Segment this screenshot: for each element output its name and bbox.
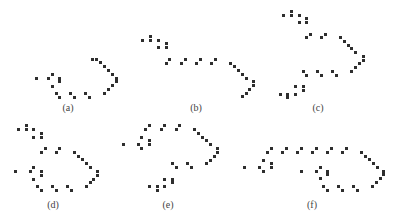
- point-dot: [356, 189, 359, 192]
- point-dot: [372, 162, 375, 165]
- point-dot: [337, 185, 340, 188]
- point-dot: [315, 147, 318, 150]
- point-dot: [266, 151, 269, 154]
- point-dot: [382, 173, 385, 176]
- point-dot: [326, 189, 329, 192]
- panel-label-f: (f): [307, 199, 317, 210]
- point-dot: [270, 162, 273, 165]
- panel-f: (f): [0, 0, 397, 220]
- point-dot: [258, 166, 261, 169]
- point-dot: [319, 166, 322, 169]
- point-dot: [262, 170, 265, 173]
- point-dot: [330, 147, 333, 150]
- point-dot: [262, 159, 265, 162]
- point-dot: [376, 166, 379, 169]
- point-dot: [364, 155, 367, 158]
- figure-canvas: (a) (b) (c) (d) (e) (f): [0, 0, 397, 220]
- point-dot: [311, 151, 314, 154]
- point-dot: [352, 185, 355, 188]
- point-dot: [326, 173, 329, 176]
- point-dot: [319, 177, 322, 180]
- point-dot: [285, 147, 288, 150]
- point-dot: [322, 185, 325, 188]
- point-dot: [360, 151, 363, 154]
- point-dot: [270, 147, 273, 150]
- point-dot: [243, 166, 246, 169]
- point-dot: [281, 151, 284, 154]
- point-dot: [371, 185, 374, 188]
- point-dot: [345, 147, 348, 150]
- point-dot: [375, 181, 378, 184]
- point-dot: [300, 170, 303, 173]
- point-dot: [341, 189, 344, 192]
- point-dot: [326, 151, 329, 154]
- point-dot: [315, 170, 318, 173]
- point-dot: [379, 177, 382, 180]
- point-dot: [341, 151, 344, 154]
- point-dot: [296, 151, 299, 154]
- point-dot: [270, 166, 273, 169]
- point-dot: [300, 147, 303, 150]
- point-dot: [368, 158, 371, 161]
